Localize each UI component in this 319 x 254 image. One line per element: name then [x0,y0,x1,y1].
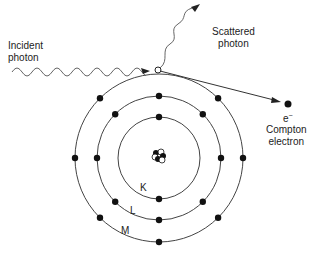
electron-m [72,155,78,161]
electron-k [156,196,162,202]
electron-m [97,215,103,221]
electron-l [156,217,162,223]
scattered-photon-wave [160,8,192,68]
shell-label-l: L [130,205,136,217]
compton-electron-label: Compton electron [266,124,307,148]
shell-label-k: K [140,182,147,194]
electron-m [156,239,162,245]
incident-label-line2: photon [8,52,43,64]
electron-m [215,215,221,221]
compton-label-line2: electron [266,136,307,148]
electron-m [215,95,221,101]
incident-photon-wave [12,68,146,76]
incident-photon-label: Incident photon [8,40,43,64]
electron-l [200,111,206,117]
scattered-label-line2: photon [212,38,255,50]
electron-track-arrowhead [271,97,281,103]
compton-label-line1: Compton [266,124,307,136]
electron-m [240,155,246,161]
electron-l [112,199,118,205]
electron-l [218,155,224,161]
incident-label-line1: Incident [8,40,43,52]
electron-l [200,199,206,205]
electron-charge: − [289,112,293,119]
scattered-label-line1: Scattered [212,26,255,38]
electron-m [97,95,103,101]
electron-l [94,155,100,161]
shell-label-m: M [121,225,129,237]
nucleus [152,149,166,163]
electron-l [156,93,162,99]
scattered-arrowhead [191,4,200,12]
scattered-photon-label: Scattered photon [212,26,255,50]
compton-electron [285,101,292,108]
electron-l [112,111,118,117]
electron-k [156,114,162,120]
